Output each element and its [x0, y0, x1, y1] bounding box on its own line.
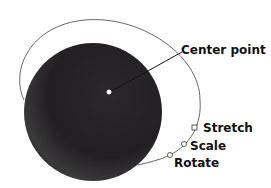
scale-handle[interactable]: [182, 142, 187, 147]
stretch-handle[interactable]: [192, 125, 197, 130]
stretch-label: Stretch: [203, 122, 253, 134]
rotate-label: Rotate: [174, 157, 219, 169]
center-point-label: Center point: [181, 44, 266, 56]
scale-label: Scale: [190, 140, 226, 152]
rotate-handle[interactable]: [168, 153, 173, 158]
center-point-handle[interactable]: [107, 90, 111, 94]
gradient-sphere: [24, 43, 162, 181]
diagram-canvas: [0, 0, 271, 188]
